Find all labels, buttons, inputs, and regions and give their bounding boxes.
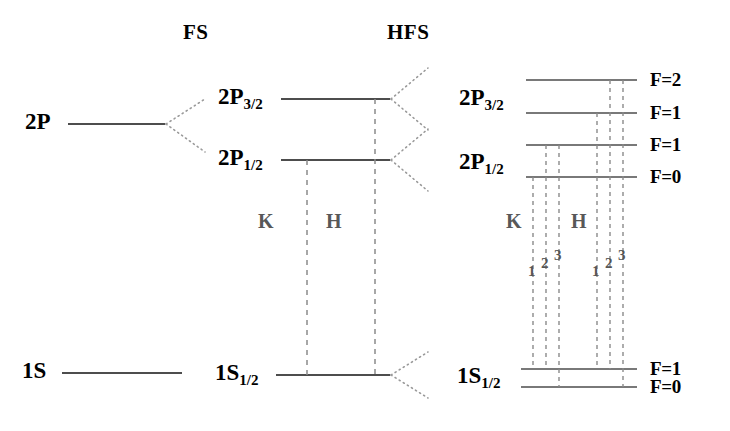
- term-label-2p-gross: 2P: [25, 110, 51, 133]
- energy-level-diagram: FS HFS 2P 1S 2P3/2 2P1/2 1S1/2 K H 2P3/2…: [0, 0, 730, 431]
- term-subscript: 1/2: [485, 161, 504, 177]
- term-base: 2P: [459, 149, 485, 174]
- term-subscript: 1/2: [239, 372, 258, 388]
- term-subscript: 3/2: [485, 97, 504, 113]
- f-label-2p12-f0: F=0: [650, 167, 681, 186]
- diagram-lines-layer: [0, 0, 730, 431]
- term-subscript: 3/2: [244, 96, 263, 112]
- transition-number-k1: 1: [528, 264, 536, 279]
- term-label-2p12-hfs: 2P1/2: [459, 150, 504, 177]
- term-label-1s12-hfs: 1S1/2: [457, 364, 500, 391]
- fan-2p32-to-f1: [391, 99, 428, 130]
- transition-number-h3: 3: [618, 248, 626, 263]
- term-label-2p12-fs: 2P1/2: [218, 146, 263, 173]
- fan-1s12-to-f0: [391, 375, 428, 398]
- term-label-1s12-fs: 1S1/2: [215, 361, 258, 388]
- transition-group-label-k-fs: K: [258, 211, 274, 231]
- term-subscript: 1/2: [244, 157, 263, 173]
- term-label-2p32-fs: 2P3/2: [218, 85, 263, 112]
- f-label-1s12-f0: F=0: [650, 377, 681, 396]
- term-label-1s-gross: 1S: [22, 359, 46, 382]
- f-label-2p32-f1: F=1: [650, 103, 681, 122]
- term-base: 2P: [218, 145, 244, 170]
- transition-group-label-k-hfs: K: [506, 211, 522, 231]
- column-header-fs: FS: [183, 22, 209, 43]
- term-base: 2P: [218, 84, 244, 109]
- fan-2p12-to-f1: [391, 129, 428, 160]
- fan-2p-to-2p12: [166, 124, 205, 152]
- transition-group-label-h-fs: H: [326, 211, 342, 231]
- fan-1s12-to-f1: [391, 352, 428, 375]
- f-label-2p12-f1: F=1: [650, 135, 681, 154]
- transition-number-k2: 2: [541, 256, 549, 271]
- transition-number-k3: 3: [554, 248, 562, 263]
- term-base: 1S: [215, 360, 239, 385]
- term-base: 2P: [459, 85, 485, 110]
- term-label-2p32-hfs: 2P3/2: [459, 86, 504, 113]
- fan-2p32-to-f2: [391, 68, 428, 99]
- transition-number-h2: 2: [605, 256, 613, 271]
- term-subscript: 1/2: [481, 375, 500, 391]
- transition-group-label-h-hfs: H: [571, 211, 587, 231]
- column-header-hfs: HFS: [387, 22, 429, 43]
- fan-2p12-to-f0: [391, 160, 428, 191]
- fan-2p-to-2p32: [166, 99, 205, 124]
- transition-number-h1: 1: [592, 264, 600, 279]
- f-label-2p32-f2: F=2: [650, 70, 681, 89]
- term-base: 1S: [457, 363, 481, 388]
